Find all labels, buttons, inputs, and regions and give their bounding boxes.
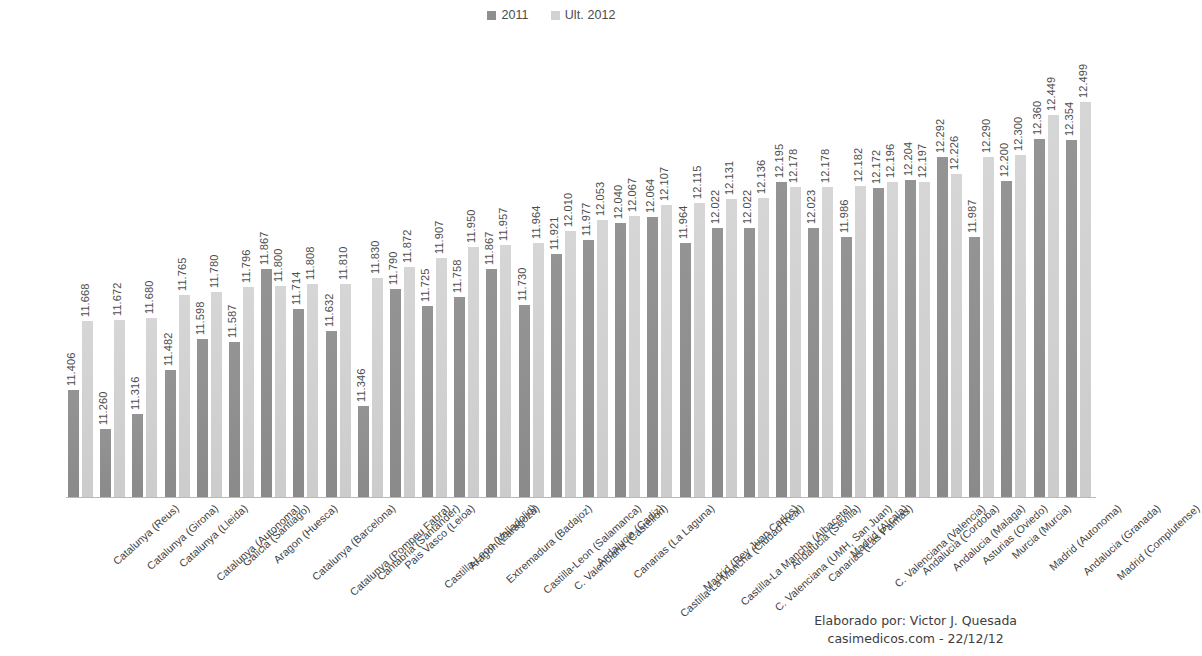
bar-2011 bbox=[937, 157, 948, 497]
bar-group: 12.02212.131 bbox=[710, 36, 742, 497]
bar-ult-2012 bbox=[919, 182, 930, 497]
bar-value-label-2011: 11.987 bbox=[966, 200, 978, 233]
bar-ult-2012 bbox=[372, 278, 383, 497]
bar-value-label-ult-2012: 12.178 bbox=[787, 148, 799, 182]
bar-group: 11.79011.872 bbox=[388, 36, 420, 497]
bar-value-label-2011: 11.482 bbox=[162, 333, 174, 366]
bar-group: 11.98612.182 bbox=[839, 36, 871, 497]
bar-group: 11.58711.796 bbox=[227, 36, 259, 497]
bar-group: 11.40611.668 bbox=[66, 36, 98, 497]
bar-ult-2012 bbox=[597, 220, 608, 497]
bar-group: 12.06412.107 bbox=[645, 36, 677, 497]
bar-group: 12.04012.067 bbox=[613, 36, 645, 497]
legend-swatch-icon-2011 bbox=[487, 11, 496, 20]
bar-ult-2012 bbox=[565, 231, 576, 497]
bar-ult-2012 bbox=[855, 186, 866, 497]
bar-value-label-2011: 11.260 bbox=[97, 391, 109, 424]
bar-2011 bbox=[100, 429, 111, 497]
bar-group: 12.17212.196 bbox=[871, 36, 903, 497]
bar-group: 11.97712.053 bbox=[581, 36, 613, 497]
bar-value-label-ult-2012: 11.964 bbox=[530, 206, 542, 239]
bar-group: 11.63211.810 bbox=[324, 36, 356, 497]
bar-value-label-2011: 11.964 bbox=[677, 206, 689, 239]
bar-value-label-ult-2012: 12.136 bbox=[755, 160, 767, 194]
bar-value-label-ult-2012: 12.182 bbox=[852, 147, 864, 181]
bar-value-label-ult-2012: 12.067 bbox=[626, 178, 638, 212]
bar-2011 bbox=[615, 223, 626, 497]
category-label: Madrid (Rey Juan Carlos) bbox=[700, 502, 799, 593]
bar-2011 bbox=[68, 390, 79, 497]
bar-ult-2012 bbox=[533, 243, 544, 497]
bar-2011 bbox=[551, 254, 562, 497]
bar-value-label-ult-2012: 11.830 bbox=[369, 241, 381, 274]
bar-ult-2012 bbox=[887, 182, 898, 497]
bar-ult-2012 bbox=[661, 205, 672, 497]
bar-ult-2012 bbox=[114, 320, 125, 497]
bar-value-label-ult-2012: 12.107 bbox=[658, 167, 670, 201]
category-label: Catalunya (Reus) bbox=[111, 502, 181, 567]
bar-value-label-2011: 12.200 bbox=[998, 143, 1010, 177]
chart-attribution: Elaborado por: Victor J. Quesada casimed… bbox=[814, 612, 1017, 648]
bar-value-label-2011: 11.598 bbox=[194, 302, 206, 335]
category-axis-labels: Catalunya (Reus)Catalunya (Girona)Catalu… bbox=[66, 500, 1096, 620]
bar-ult-2012 bbox=[500, 245, 511, 497]
bar-value-label-2011: 11.790 bbox=[387, 251, 399, 284]
bar-2011 bbox=[873, 188, 884, 497]
bar-value-label-ult-2012: 12.197 bbox=[916, 143, 928, 177]
bar-group: 11.72511.907 bbox=[420, 36, 452, 497]
bar-value-label-2011: 11.714 bbox=[290, 271, 302, 304]
bar-group: 11.26011.672 bbox=[98, 36, 130, 497]
bar-value-label-2011: 11.632 bbox=[323, 293, 335, 326]
bar-group: 11.92112.010 bbox=[549, 36, 581, 497]
bar-ult-2012 bbox=[404, 267, 415, 497]
bar-value-label-ult-2012: 11.872 bbox=[401, 230, 413, 263]
legend-label-ult-2012: Ult. 2012 bbox=[565, 8, 616, 22]
bar-value-label-ult-2012: 12.053 bbox=[594, 181, 606, 215]
bar-value-label-ult-2012: 12.226 bbox=[948, 136, 960, 170]
bar-group: 11.71411.808 bbox=[291, 36, 323, 497]
bar-value-label-2011: 11.921 bbox=[548, 217, 560, 250]
bar-value-label-ult-2012: 11.808 bbox=[304, 247, 316, 280]
bar-2011 bbox=[744, 228, 755, 497]
bar-value-label-2011: 11.587 bbox=[226, 305, 238, 338]
bar-ult-2012 bbox=[758, 198, 769, 497]
bar-ult-2012 bbox=[146, 318, 157, 497]
bar-2011 bbox=[712, 228, 723, 497]
bar-2011 bbox=[583, 240, 594, 497]
bar-2011 bbox=[326, 331, 337, 497]
bar-group: 12.29212.226 bbox=[935, 36, 967, 497]
bar-2011 bbox=[422, 306, 433, 497]
bar-value-label-ult-2012: 12.010 bbox=[562, 193, 574, 227]
bar-2011 bbox=[486, 269, 497, 497]
bar-value-label-2011: 12.172 bbox=[870, 150, 882, 184]
bar-2011 bbox=[1001, 181, 1012, 497]
bar-value-label-ult-2012: 11.957 bbox=[497, 207, 509, 240]
bar-2011 bbox=[1034, 139, 1045, 497]
bar-group: 11.59811.780 bbox=[195, 36, 227, 497]
chart-legend: 2011 Ult. 2012 bbox=[0, 8, 1103, 22]
bar-value-label-2011: 12.204 bbox=[902, 142, 914, 176]
bar-value-label-ult-2012: 12.196 bbox=[884, 144, 896, 178]
bar-2011 bbox=[905, 180, 916, 497]
bar-value-label-ult-2012: 11.907 bbox=[433, 221, 445, 254]
bar-2011 bbox=[390, 289, 401, 497]
bar-2011 bbox=[229, 342, 240, 497]
bar-value-label-ult-2012: 11.672 bbox=[111, 283, 123, 316]
bar-group: 11.34611.830 bbox=[356, 36, 388, 497]
bar-2011 bbox=[132, 414, 143, 497]
bar-ult-2012 bbox=[726, 199, 737, 497]
bar-value-label-2011: 12.292 bbox=[934, 118, 946, 152]
bar-value-label-2011: 11.867 bbox=[483, 231, 495, 264]
bar-group: 11.96412.115 bbox=[678, 36, 710, 497]
bar-group: 12.19512.178 bbox=[774, 36, 806, 497]
bar-value-label-2011: 12.023 bbox=[805, 189, 817, 223]
bar-ult-2012 bbox=[243, 287, 254, 497]
bar-value-label-2011: 12.022 bbox=[709, 190, 721, 224]
bar-value-label-ult-2012: 11.796 bbox=[240, 250, 252, 283]
bar-ult-2012 bbox=[1080, 102, 1091, 497]
bar-value-label-2011: 11.977 bbox=[580, 202, 592, 235]
bar-ult-2012 bbox=[468, 247, 479, 497]
bar-value-label-ult-2012: 12.131 bbox=[723, 161, 735, 195]
category-axis-line bbox=[66, 497, 1096, 498]
bar-value-label-2011: 11.406 bbox=[65, 353, 77, 386]
